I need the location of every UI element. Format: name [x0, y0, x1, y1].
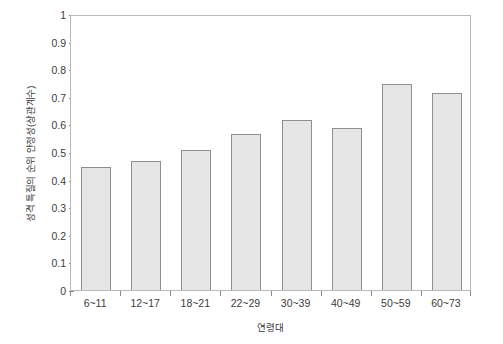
x-axis-tick-label: 40~49 [331, 297, 361, 309]
x-axis-tick-label: 22~29 [231, 297, 261, 309]
y-axis-tick-label: 0.5 [51, 147, 66, 159]
y-axis-tick-label: 0.9 [51, 37, 66, 49]
x-axis-tick-mark [470, 291, 471, 296]
x-axis-tick-mark [371, 291, 372, 296]
bar[interactable] [81, 167, 111, 290]
x-axis-tick-mark [321, 291, 322, 296]
bar-slot [121, 16, 171, 290]
x-axis-tick-label: 6~11 [84, 297, 107, 309]
y-axis-tick-label: 0.6 [51, 119, 66, 131]
y-axis-tick-label: 0.8 [51, 64, 66, 76]
bar[interactable] [181, 150, 211, 290]
x-axis-tick-label: 30~39 [281, 297, 311, 309]
bar-series [71, 16, 470, 290]
bar[interactable] [282, 120, 312, 290]
x-axis-tick-label: 12~17 [130, 297, 160, 309]
y-axis-tick-label: 0.4 [51, 175, 66, 187]
bar-slot [171, 16, 221, 290]
bar-slot [322, 16, 372, 290]
y-axis-tick-label: 0.7 [51, 92, 66, 104]
y-axis-tick-label: 0.3 [51, 202, 66, 214]
plot-area [70, 15, 471, 291]
y-axis-tick-label: 1 [60, 9, 66, 21]
bar[interactable] [131, 161, 161, 290]
x-axis-tick-mark [70, 291, 71, 296]
y-axis-tick-label: 0.2 [51, 230, 66, 242]
y-axis-tick-label: 0.1 [51, 257, 66, 269]
x-axis-tick-mark [421, 291, 422, 296]
x-axis-title: 연령대 [70, 320, 471, 334]
x-axis-tick-label: 60~73 [431, 297, 461, 309]
bar[interactable] [382, 84, 412, 290]
bar[interactable] [332, 128, 362, 290]
bar-slot [372, 16, 422, 290]
bar-chart-figure: 성격 특질의 순위 안정성(상관계수) 00.10.20.30.40.50.60… [0, 0, 503, 344]
y-axis-tick-label: 0 [60, 285, 66, 297]
x-axis-tick-mark [271, 291, 272, 296]
y-axis-title: 성격 특질의 순위 안정성(상관계수) [22, 18, 38, 290]
bar-slot [71, 16, 121, 290]
bar[interactable] [231, 134, 261, 290]
x-axis-tick-label: 50~59 [381, 297, 411, 309]
y-axis-tick-labels: 00.10.20.30.40.50.60.70.80.91 [40, 15, 66, 291]
bar-slot [221, 16, 271, 290]
x-axis-tick-mark [170, 291, 171, 296]
x-axis-tick-labels: 6~1112~1718~2122~2930~3940~4950~5960~73 [70, 297, 471, 313]
bar-slot [272, 16, 322, 290]
bar-slot [422, 16, 472, 290]
x-axis-tick-mark [220, 291, 221, 296]
bar[interactable] [432, 93, 462, 290]
x-axis-tick-label: 18~21 [181, 297, 211, 309]
x-axis-tick-mark [120, 291, 121, 296]
